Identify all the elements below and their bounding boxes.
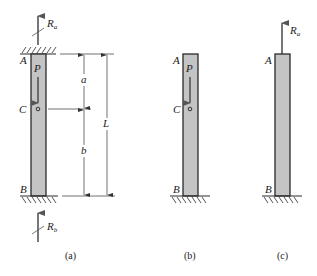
bottom-fixed-support-icon [170, 196, 210, 203]
caption-a: (a) [65, 250, 76, 262]
caption-b: (b) [184, 250, 196, 262]
point-c-label: C [19, 103, 27, 115]
load-p-label: P [33, 62, 41, 74]
bar [31, 54, 46, 196]
point-a-label: A [264, 54, 272, 66]
reaction-rb-arrow-icon [32, 213, 44, 242]
top-fixed-support-icon [20, 47, 56, 54]
load-p-label: P [185, 62, 193, 74]
panel-a: Ra A P C B Rb [19, 16, 115, 262]
point-a-label: A [19, 54, 27, 66]
statically-indeterminate-bar-diagram: Ra A P C B Rb [0, 0, 317, 276]
reaction-ra-arrow-icon [32, 16, 44, 45]
caption-c: (c) [277, 250, 288, 262]
reaction-rb-label: Rb [46, 220, 58, 234]
reaction-ra-label: Ra [46, 17, 58, 31]
point-b-label: B [173, 183, 180, 195]
bottom-fixed-support-icon [262, 196, 302, 203]
point-b-label: B [265, 183, 272, 195]
bottom-fixed-support-icon [20, 196, 58, 203]
dimension-b-label: b [81, 144, 87, 156]
bar [183, 54, 198, 196]
bar [275, 54, 290, 196]
dimension-l-label: L [102, 117, 109, 129]
panel-b: A P C B (b) [170, 54, 210, 262]
point-c-label: C [173, 103, 181, 115]
dimension-a-label: a [81, 73, 87, 85]
reaction-ra-label: Ra [289, 24, 301, 38]
point-a-label: A [172, 54, 180, 66]
panel-c: Ra A B (c) [262, 23, 302, 262]
point-b-label: B [20, 183, 27, 195]
